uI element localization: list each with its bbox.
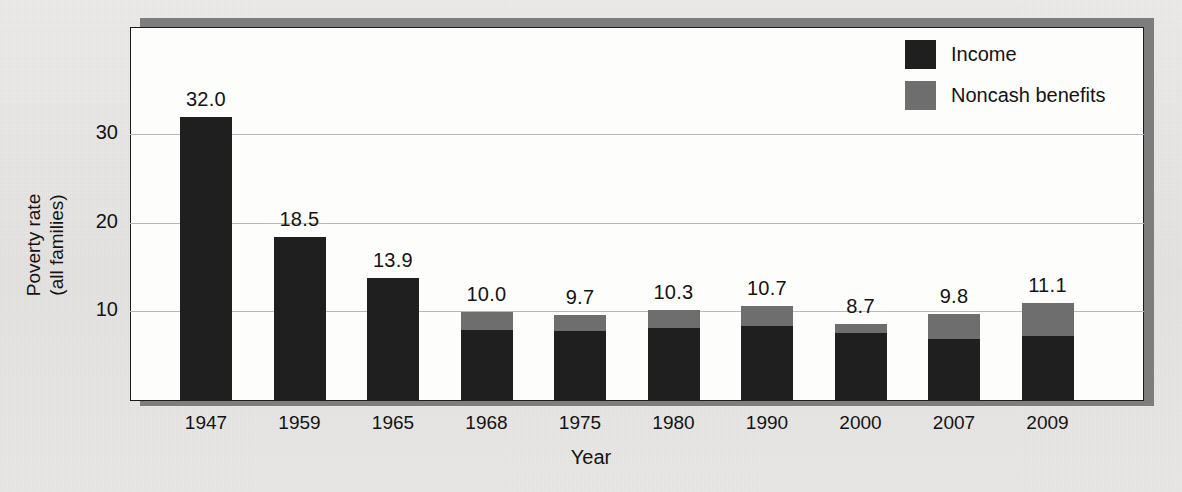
bar-segment-income-1990 xyxy=(741,326,793,401)
bar-segment-income-1968 xyxy=(461,330,513,401)
gridline-30 xyxy=(130,134,1144,135)
income-swatch xyxy=(905,40,936,69)
y-tick-30: 30 xyxy=(58,121,118,144)
bar-segment-income-2009 xyxy=(1022,336,1074,401)
value-label-1947: 32.0 xyxy=(146,88,266,111)
value-label-1959: 18.5 xyxy=(240,208,360,231)
bar-segment-noncash-2000 xyxy=(835,324,887,333)
x-axis-title: Year xyxy=(0,446,1182,469)
bar-1980 xyxy=(648,310,700,401)
bar-segment-noncash-1975 xyxy=(554,315,606,331)
bar-segment-noncash-1968 xyxy=(461,312,513,330)
y-tick-20: 20 xyxy=(58,210,118,233)
bar-2000 xyxy=(835,324,887,401)
bar-1947 xyxy=(180,117,232,401)
y-axis-title-line1: Poverty rate xyxy=(23,194,44,296)
legend-label: Income xyxy=(951,43,1017,66)
bar-segment-income-1965 xyxy=(367,278,419,401)
bar-2007 xyxy=(928,314,980,401)
bar-1965 xyxy=(367,278,419,401)
bar-segment-income-1959 xyxy=(274,237,326,401)
x-tick-2009: 2009 xyxy=(993,412,1103,434)
bar-segment-noncash-2009 xyxy=(1022,303,1074,337)
legend-item-noncash-benefits: Noncash benefits xyxy=(905,81,1130,110)
bar-segment-income-1975 xyxy=(554,331,606,401)
bar-1968 xyxy=(461,312,513,401)
bar-segment-income-1947 xyxy=(180,117,232,401)
noncash-swatch xyxy=(905,81,936,110)
value-label-1965: 13.9 xyxy=(333,249,453,272)
legend: IncomeNoncash benefits xyxy=(905,40,1130,122)
legend-label: Noncash benefits xyxy=(951,84,1106,107)
bar-2009 xyxy=(1022,303,1074,401)
bar-segment-income-2007 xyxy=(928,339,980,401)
bar-segment-noncash-1980 xyxy=(648,310,700,329)
bar-segment-noncash-1990 xyxy=(741,306,793,325)
bar-1990 xyxy=(741,306,793,401)
legend-item-income: Income xyxy=(905,40,1130,69)
bar-segment-noncash-2007 xyxy=(928,314,980,339)
bar-1959 xyxy=(274,237,326,401)
bar-segment-income-2000 xyxy=(835,333,887,401)
bar-1975 xyxy=(554,315,606,401)
y-tick-10: 10 xyxy=(58,298,118,321)
bar-segment-income-1980 xyxy=(648,328,700,401)
value-label-2009: 11.1 xyxy=(988,274,1108,297)
poverty-rate-bar-chart: Poverty rate (all families) 102030 32.01… xyxy=(0,0,1182,492)
